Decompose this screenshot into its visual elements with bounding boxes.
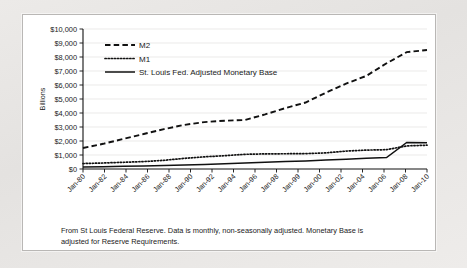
x-tick-label: Jan-98 <box>259 172 281 194</box>
x-tick-label: Jan-92 <box>194 172 216 194</box>
y-axis-ticks: $0$1,000$2,000$3,000$4,000$5,000$6,000$7… <box>50 25 83 174</box>
y-tick-label: $2,000 <box>54 137 77 146</box>
y-tick-label: $5,000 <box>54 95 77 104</box>
x-tick-label: Jan-80 <box>65 172 87 194</box>
x-tick-label: Jan-08 <box>388 172 410 194</box>
x-tick-label: Jan-02 <box>323 172 345 194</box>
x-tick-label: Jan-88 <box>151 172 173 194</box>
y-tick-label: $6,000 <box>54 81 77 90</box>
plot-area: $0$1,000$2,000$3,000$4,000$5,000$6,000$7… <box>23 15 435 250</box>
x-tick-label: Jan-10 <box>409 172 431 194</box>
y-tick-label: $4,000 <box>54 109 77 118</box>
chart-panel: $0$1,000$2,000$3,000$4,000$5,000$6,000$7… <box>22 14 436 251</box>
y-tick-label: $9,000 <box>54 39 77 48</box>
x-tick-label: Jan-00 <box>302 172 324 194</box>
legend-label: M2 <box>139 41 151 50</box>
x-axis-ticks: Jan-80Jan-82Jan-84Jan-86Jan-88Jan-90Jan-… <box>65 169 431 194</box>
x-tick-label: Jan-94 <box>216 172 238 194</box>
x-tick-label: Jan-99 <box>280 172 302 194</box>
chart-caption: From St Louis Federal Reserve. Data is m… <box>61 225 391 248</box>
chart-legend: M2M1St. Louis Fed. Adjusted Monetary Bas… <box>105 41 278 77</box>
y-tick-label: $0 <box>69 165 77 174</box>
x-tick-label: Jan-06 <box>366 172 388 194</box>
x-tick-label: Jan-96 <box>237 172 259 194</box>
figure-page: $0$1,000$2,000$3,000$4,000$5,000$6,000$7… <box>0 0 467 268</box>
legend-label: M1 <box>139 55 151 64</box>
y-axis-label: Billions <box>38 87 47 110</box>
y-tick-label: $10,000 <box>50 25 77 34</box>
y-tick-label: $7,000 <box>54 67 77 76</box>
x-tick-label: Jan-04 <box>345 172 367 194</box>
x-tick-label: Jan-86 <box>130 172 152 194</box>
money-supply-line-chart: $0$1,000$2,000$3,000$4,000$5,000$6,000$7… <box>23 15 435 250</box>
x-tick-label: Jan-84 <box>108 172 130 194</box>
series-line <box>83 145 427 163</box>
y-tick-label: $3,000 <box>54 123 77 132</box>
legend-label: St. Louis Fed. Adjusted Monetary Base <box>139 68 278 77</box>
x-tick-label: Jan-82 <box>87 172 109 194</box>
x-tick-label: Jan-90 <box>173 172 195 194</box>
y-tick-label: $1,000 <box>54 151 77 160</box>
y-tick-label: $8,000 <box>54 53 77 62</box>
